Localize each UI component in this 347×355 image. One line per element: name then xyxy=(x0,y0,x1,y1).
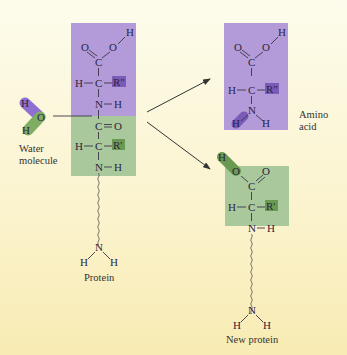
new-protein-label: New protein xyxy=(226,334,279,345)
atom-h: H xyxy=(75,77,83,89)
atom-o: O xyxy=(109,41,117,53)
atom-h: H xyxy=(21,97,29,109)
water-label-line2: molecule xyxy=(19,155,58,166)
atom-n: N xyxy=(248,222,256,234)
atom-h: H xyxy=(80,256,88,268)
atom-o: O xyxy=(232,165,240,177)
atom-n: N xyxy=(248,104,256,116)
atom-n: N xyxy=(95,241,103,253)
atom-h: H xyxy=(263,319,271,331)
atom-c: C xyxy=(95,140,102,152)
polypeptide-chain xyxy=(98,173,100,245)
atom-n: N xyxy=(95,98,103,110)
atom-o: O xyxy=(262,165,270,177)
atom-h: H xyxy=(218,151,226,163)
atom-n: N xyxy=(248,304,256,316)
atom-c: C xyxy=(248,180,255,192)
atom-h: H xyxy=(262,117,270,129)
atom-h: H xyxy=(228,84,236,96)
protein-label: Protein xyxy=(84,272,115,283)
atom-r: R" xyxy=(113,76,125,88)
amino-acid-structure: O O H C H C R" N H H Amino acid xyxy=(224,23,328,132)
atom-h: H xyxy=(267,222,275,234)
hydrolysis-diagram: O O H C H C R" N H C O H C R' xyxy=(0,0,347,355)
atom-n: N xyxy=(95,161,103,173)
polypeptide-chain xyxy=(251,234,253,314)
atom-h: H xyxy=(126,26,134,38)
atom-h: H xyxy=(75,140,83,152)
atom-o: O xyxy=(262,41,270,53)
atom-h: H xyxy=(114,98,122,110)
atom-h: H xyxy=(278,26,286,38)
atom-r: R' xyxy=(113,139,122,151)
protein-structure: O O H C H C R" N H C O H C R' xyxy=(71,23,136,283)
atom-c: C xyxy=(95,120,102,132)
atom-r: R' xyxy=(266,200,275,212)
water-label-line1: Water xyxy=(19,143,44,154)
atom-r: R" xyxy=(266,83,278,95)
atom-c: C xyxy=(95,56,102,68)
atom-h: H xyxy=(22,124,30,136)
arrow-to-amino-acid xyxy=(147,79,210,112)
atom-o: O xyxy=(81,41,89,53)
amino-acid-label-line1: Amino xyxy=(299,109,328,120)
arrow-to-new-protein xyxy=(147,122,210,169)
atom-o: O xyxy=(37,111,45,123)
atom-c: C xyxy=(248,56,255,68)
atom-c: C xyxy=(248,84,255,96)
atom-c: C xyxy=(95,77,102,89)
atom-c: C xyxy=(248,201,255,213)
atom-o: O xyxy=(114,120,122,132)
atom-h: H xyxy=(233,319,241,331)
atom-h: H xyxy=(232,117,240,129)
atom-h: H xyxy=(114,161,122,173)
amino-acid-label-line2: acid xyxy=(299,121,317,132)
atom-h: H xyxy=(110,256,118,268)
atom-o: O xyxy=(234,41,242,53)
purple-residue-box xyxy=(224,23,288,130)
new-protein-structure: H O O C H C R' N H N H H New protein xyxy=(218,151,289,345)
atom-h: H xyxy=(228,201,236,213)
